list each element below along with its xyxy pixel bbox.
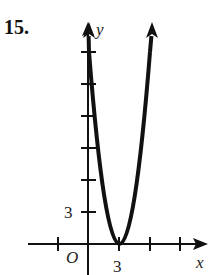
curve-right-arrow-icon <box>146 22 158 38</box>
origin-label: O <box>66 248 78 267</box>
y-tick-label-3: 3 <box>64 203 73 222</box>
x-tick-label-3: 3 <box>113 257 122 275</box>
parabola-graph: y x O 3 3 <box>0 0 209 275</box>
y-axis-label: y <box>94 20 104 39</box>
x-axis-label: x <box>195 253 204 272</box>
parabola-curve <box>89 52 150 244</box>
